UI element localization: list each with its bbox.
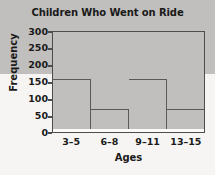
bar-3-5 bbox=[53, 79, 91, 129]
y-tick-label-100: 100 bbox=[8, 94, 48, 104]
bar-6-8 bbox=[91, 109, 129, 128]
y-tick-label-200: 200 bbox=[8, 60, 48, 70]
x-tick-label-6-8: 6–8 bbox=[90, 136, 128, 147]
chart-title: Children Who Went on Ride bbox=[0, 7, 215, 18]
y-tick-label-50: 50 bbox=[8, 111, 48, 121]
plot-area bbox=[52, 31, 205, 133]
x-axis-label: Ages bbox=[52, 152, 205, 163]
y-tick-label-150: 150 bbox=[8, 77, 48, 87]
x-tick-label-9-11: 9–11 bbox=[129, 136, 167, 147]
x-tick-label-3-5: 3–5 bbox=[52, 136, 90, 147]
x-tick-label-13-15: 13–15 bbox=[167, 136, 205, 147]
y-tick-label-250: 250 bbox=[8, 43, 48, 53]
bar-series bbox=[53, 32, 204, 129]
bar-chart-figure: Children Who Went on Ride Frequency 300 … bbox=[0, 0, 215, 74]
x-axis-tick-labels: 3–5 6–8 9–11 13–15 bbox=[52, 136, 205, 147]
y-tick-label-0: 0 bbox=[8, 128, 48, 138]
y-tick-label-300: 300 bbox=[8, 27, 48, 37]
bar-13-15 bbox=[167, 109, 204, 128]
bar-9-11 bbox=[129, 79, 167, 129]
